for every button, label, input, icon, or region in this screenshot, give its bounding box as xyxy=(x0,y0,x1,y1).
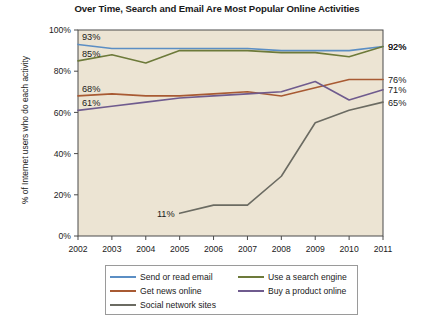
legend-color-swatch xyxy=(110,276,136,278)
series-start-label: 68% xyxy=(82,84,100,94)
legend-item[interactable]: Use a search engine xyxy=(234,272,359,282)
x-axis-tick-label: 2003 xyxy=(102,244,121,254)
legend: Send or read emailUse a search engineGet… xyxy=(105,265,358,315)
x-axis-tick-label: 2009 xyxy=(306,244,325,254)
y-axis-tick-label: 0% xyxy=(59,231,72,241)
legend-color-swatch xyxy=(110,290,136,292)
y-axis-tick-label: 20% xyxy=(54,190,72,200)
legend-item[interactable]: Send or read email xyxy=(106,272,234,282)
x-axis-tick-label: 2004 xyxy=(136,244,155,254)
legend-item[interactable]: Social network sites xyxy=(106,300,234,310)
legend-item-label: Use a search engine xyxy=(268,272,347,282)
legend-grid: Send or read emailUse a search engineGet… xyxy=(106,270,357,312)
legend-item[interactable]: Buy a product online xyxy=(234,286,359,296)
x-axis-tick-label: 2006 xyxy=(204,244,223,254)
legend-item-label: Get news online xyxy=(140,286,202,296)
legend-item-label: Buy a product online xyxy=(268,286,346,296)
series-start-label: 11% xyxy=(157,209,175,219)
x-axis-tick-label: 2010 xyxy=(340,244,359,254)
x-axis-tick-label: 2011 xyxy=(374,244,393,254)
legend-color-swatch xyxy=(110,304,136,306)
legend-item[interactable]: Get news online xyxy=(106,286,234,296)
y-axis-tick-label: 60% xyxy=(54,108,72,118)
series-start-label: 93% xyxy=(82,32,100,42)
x-axis-tick-label: 2007 xyxy=(238,244,257,254)
series-start-label: 61% xyxy=(82,98,100,108)
legend-item-label: Social network sites xyxy=(140,300,216,310)
series-end-label: 65% xyxy=(388,98,406,108)
legend-color-swatch xyxy=(238,276,264,278)
series-start-label: 85% xyxy=(82,49,100,59)
series-end-label: 92% xyxy=(388,42,406,52)
series-end-label: 76% xyxy=(388,75,406,85)
series-end-label: 71% xyxy=(388,85,406,95)
y-axis-tick-label: 80% xyxy=(54,66,72,76)
legend-item-label: Send or read email xyxy=(140,272,213,282)
chart-container: Over Time, Search and Email Are Most Pop… xyxy=(0,0,434,323)
legend-color-swatch xyxy=(238,290,264,292)
y-axis-tick-label: 100% xyxy=(49,25,71,35)
x-axis-tick-label: 2005 xyxy=(170,244,189,254)
x-axis-tick-label: 2008 xyxy=(272,244,291,254)
y-axis-tick-label: 40% xyxy=(54,149,72,159)
x-axis-tick-label: 2002 xyxy=(68,244,87,254)
